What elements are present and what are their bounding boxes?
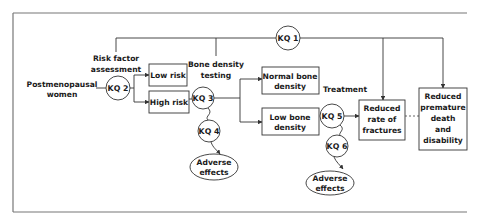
svg-text:KQ 5: KQ 5 xyxy=(322,112,343,121)
svg-text:KQ 1: KQ 1 xyxy=(278,34,299,43)
svg-text:Postmenopausal: Postmenopausal xyxy=(27,80,98,89)
svg-text:KQ 3: KQ 3 xyxy=(193,94,214,103)
svg-text:death: death xyxy=(431,114,456,123)
svg-text:disability: disability xyxy=(423,136,463,145)
svg-text:Bone density: Bone density xyxy=(188,60,244,69)
bone-density-testing-label: Bone density testing xyxy=(188,60,244,80)
svg-text:Reduced: Reduced xyxy=(364,104,401,113)
svg-text:fractures: fractures xyxy=(362,126,402,135)
low-risk-box[interactable]: Low risk xyxy=(149,64,187,86)
low-bone-density-box[interactable]: Low bone density xyxy=(262,108,319,135)
svg-text:premature: premature xyxy=(420,103,465,112)
kq4-node[interactable]: KQ 4 xyxy=(198,120,220,142)
svg-text:KQ 6: KQ 6 xyxy=(327,142,348,151)
svg-text:Adverse: Adverse xyxy=(313,174,348,183)
svg-text:Adverse: Adverse xyxy=(197,158,232,167)
svg-text:density: density xyxy=(274,82,306,91)
kq3-branch-connector xyxy=(214,79,262,122)
kq4-to-adverse-connector xyxy=(211,142,220,154)
treatment-label: Treatment xyxy=(323,85,367,94)
svg-text:rate of: rate of xyxy=(368,115,398,124)
svg-text:Normal bone: Normal bone xyxy=(263,72,318,81)
kq3-node[interactable]: KQ 3 xyxy=(192,87,214,109)
svg-text:women: women xyxy=(47,90,78,99)
analytic-framework-diagram: KQ 1 Postmenopausal women Risk factor as… xyxy=(0,0,483,217)
svg-text:assessment: assessment xyxy=(91,65,142,74)
svg-text:effects: effects xyxy=(315,184,345,193)
kq6-to-adverse-connector xyxy=(334,157,343,169)
adverse-effects-ellipse-2[interactable]: Adverse effects xyxy=(306,171,354,195)
svg-text:effects: effects xyxy=(199,168,229,177)
svg-text:Reduced: Reduced xyxy=(425,92,462,101)
kq2-branch-connector xyxy=(130,75,149,102)
reduced-premature-death-box[interactable]: Reduced premature death and disability xyxy=(419,88,467,150)
normal-bone-density-box[interactable]: Normal bone density xyxy=(262,67,319,94)
svg-text:High risk: High risk xyxy=(150,98,189,107)
kq3-kq4-connector xyxy=(207,108,210,120)
svg-text:Low risk: Low risk xyxy=(150,71,187,80)
svg-text:and: and xyxy=(435,125,451,134)
reduced-fractures-box[interactable]: Reduced rate of fractures xyxy=(359,100,405,140)
kq6-node[interactable]: KQ 6 xyxy=(326,135,348,157)
svg-text:testing: testing xyxy=(201,71,231,80)
kq2-node[interactable]: KQ 2 xyxy=(106,76,130,100)
risk-assessment-label: Risk factor assessment xyxy=(91,54,142,74)
svg-text:Low bone: Low bone xyxy=(270,113,311,122)
svg-text:density: density xyxy=(274,123,306,132)
kq5-kq6-connector xyxy=(340,125,343,136)
population-label: Postmenopausal women xyxy=(27,80,98,99)
adverse-effects-ellipse-1[interactable]: Adverse effects xyxy=(190,154,238,180)
high-risk-box[interactable]: High risk xyxy=(149,91,189,113)
svg-text:Risk factor: Risk factor xyxy=(93,54,139,63)
kq5-node[interactable]: KQ 5 xyxy=(320,104,344,128)
svg-text:KQ 4: KQ 4 xyxy=(199,127,220,136)
svg-text:KQ 2: KQ 2 xyxy=(108,84,129,93)
kq1-node[interactable]: KQ 1 xyxy=(276,26,300,50)
